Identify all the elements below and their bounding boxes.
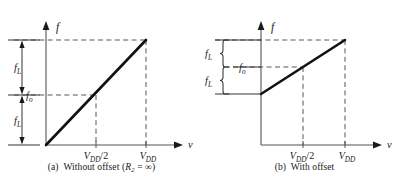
x-axis-arrowhead-b bbox=[373, 142, 382, 149]
y-label-fo-a: fo bbox=[26, 90, 33, 104]
caption-a-paren-close: ) bbox=[152, 162, 155, 172]
annot-arrowhead-upper-bottom-a bbox=[19, 87, 24, 95]
x-axis-label-a: v bbox=[188, 139, 193, 150]
y-axis-label-a: f bbox=[56, 21, 61, 34]
caption-a-prefix: (a) bbox=[48, 162, 59, 172]
y-label-fl-lower-a: fL bbox=[14, 115, 21, 129]
plot-a: f v fL fo fL VDD/2 VDD bbox=[0, 0, 203, 162]
y-label-fl-lower-b: fL bbox=[205, 75, 212, 89]
x-tick-label-vdd-half-a: VDD/2 bbox=[84, 150, 108, 162]
annot-brace-lower-b bbox=[220, 67, 229, 94]
caption-a: (a) Without offset (R2 = ∞) bbox=[0, 162, 203, 174]
y-axis-label-b: f bbox=[271, 21, 276, 34]
y-label-fo-b: fo bbox=[239, 62, 246, 76]
caption-a-text: Without offset bbox=[63, 162, 119, 172]
annot-arrowhead-upper-top-a bbox=[19, 41, 24, 49]
y-axis-arrowhead-a bbox=[43, 21, 50, 30]
caption-b-text: With offset bbox=[291, 162, 335, 172]
plot-b: f v fL fo fL VDD/2 VDD bbox=[203, 0, 406, 162]
caption-a-value: ∞ bbox=[145, 162, 152, 172]
figure-container: f v fL fo fL VDD/2 VDD bbox=[0, 0, 406, 194]
x-axis-label-b: v bbox=[387, 139, 392, 150]
caption-b-prefix: (b) bbox=[275, 162, 286, 172]
x-axis-arrowhead-a bbox=[174, 142, 183, 149]
annot-brace-upper-b bbox=[220, 40, 229, 67]
panel-a: f v fL fo fL VDD/2 VDD bbox=[0, 0, 203, 194]
caption-a-rel: = bbox=[135, 162, 145, 172]
y-label-fl-upper-b: fL bbox=[205, 48, 212, 62]
y-label-fl-upper-a: fL bbox=[14, 62, 21, 76]
x-tick-label-vdd-b: VDD bbox=[339, 150, 356, 162]
x-tick-label-vdd-a: VDD bbox=[140, 150, 157, 162]
annot-arrowhead-lower-top-a bbox=[19, 96, 24, 104]
panel-b: f v fL fo fL VDD/2 VDD bbox=[203, 0, 406, 194]
y-axis-arrowhead-b bbox=[258, 21, 265, 30]
caption-b: (b) With offset bbox=[203, 162, 406, 172]
annot-arrowhead-lower-bottom-a bbox=[19, 137, 24, 145]
x-tick-label-vdd-half-b: VDD/2 bbox=[290, 150, 314, 162]
